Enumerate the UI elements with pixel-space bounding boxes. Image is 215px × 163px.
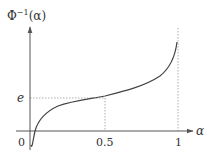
quantile-function-diagram: Φ−1(α) α 0 0.5 1 e <box>0 0 215 163</box>
tick-label-0: 0 <box>18 136 25 149</box>
y-axis-label: Φ−1(α) <box>7 8 46 23</box>
tick-label-1: 1 <box>175 136 182 149</box>
e-label: e <box>17 91 24 105</box>
x-axis-label: α <box>196 124 204 138</box>
tick-label-half: 0.5 <box>96 136 114 149</box>
